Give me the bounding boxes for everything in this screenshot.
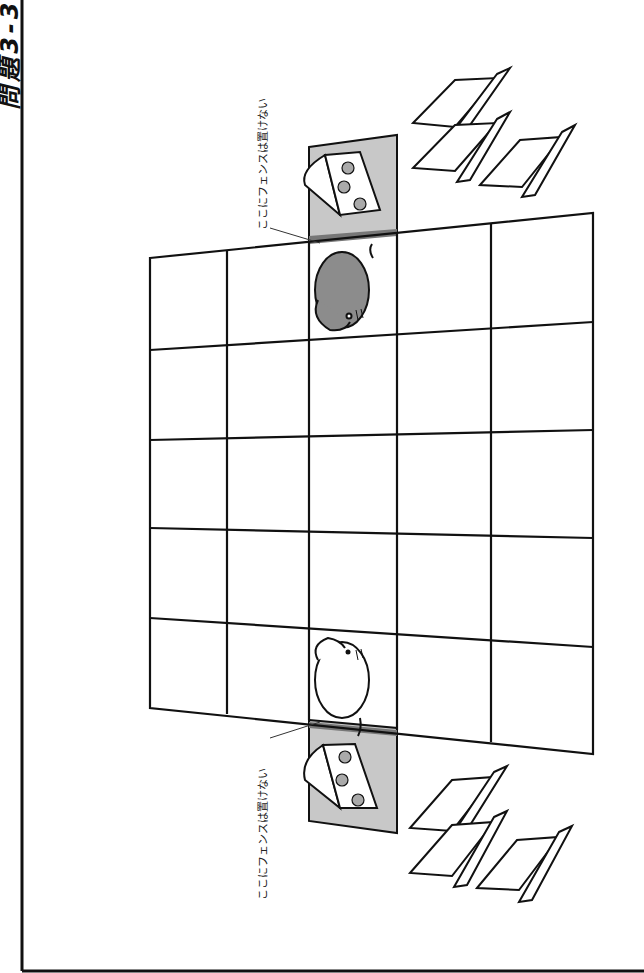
game-board-illustration: [0, 0, 644, 973]
grid-board: [150, 213, 593, 754]
note-no-fence-bottom: ここにフェンスは置けない: [254, 768, 270, 900]
note-no-fence-top: ここにフェンスは置けない: [254, 98, 270, 230]
fence-tray-icon: [413, 68, 510, 127]
gray-mouse-icon: [315, 244, 373, 330]
